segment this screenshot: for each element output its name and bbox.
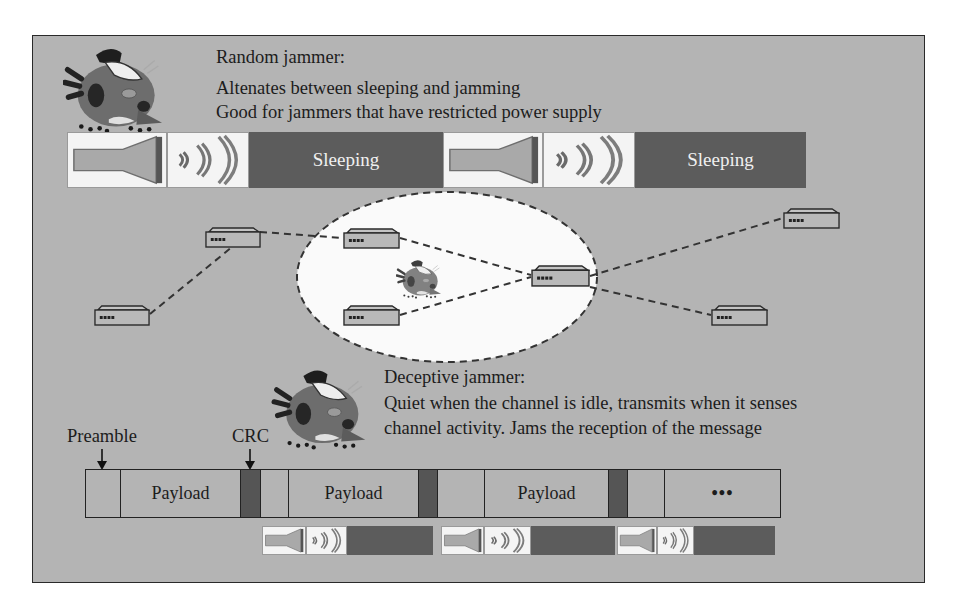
arrow-down-icon bbox=[244, 449, 256, 471]
deceptive-jammer-desc-2: channel activity. Jams the reception of … bbox=[384, 417, 762, 439]
network-node-icon bbox=[343, 305, 400, 326]
deceptive-jammer-desc-1: Quiet when the channel is idle, transmit… bbox=[384, 392, 797, 414]
jam-burst-block bbox=[531, 526, 615, 555]
frame-segment-gap bbox=[628, 470, 665, 517]
frame-segment-payload: Payload bbox=[485, 470, 609, 517]
frame-segment-payload: Payload bbox=[121, 470, 241, 517]
frame-segment-preamble bbox=[86, 470, 121, 517]
radio-waves-icon bbox=[306, 526, 347, 555]
arrow-down-icon bbox=[96, 449, 108, 471]
network-node-icon bbox=[205, 227, 261, 248]
jam-burst-block bbox=[347, 526, 433, 555]
speaker-icon bbox=[617, 526, 657, 555]
frame-segment-more: ••• bbox=[665, 470, 780, 517]
jammer-creature-icon bbox=[396, 250, 446, 306]
speaker-icon bbox=[262, 526, 306, 555]
radio-waves-icon bbox=[657, 526, 694, 555]
frame-segment-crc bbox=[241, 470, 261, 517]
jammer-creature-icon bbox=[268, 364, 380, 450]
network-node-icon bbox=[531, 265, 590, 287]
deceptive-jammer-title: Deceptive jammer: bbox=[384, 366, 525, 388]
speaker-icon bbox=[441, 526, 484, 555]
network-node-icon bbox=[783, 208, 840, 229]
crc-label: CRC bbox=[232, 425, 269, 447]
preamble-label: Preamble bbox=[67, 425, 137, 447]
network-node-icon bbox=[711, 305, 768, 326]
frame-segment-payload: Payload bbox=[289, 470, 419, 517]
frame-segment-gap bbox=[438, 470, 485, 517]
frame-segment-gap bbox=[261, 470, 289, 517]
frame-segment-crc bbox=[609, 470, 628, 517]
jam-burst-block bbox=[694, 526, 775, 555]
frame-segment-crc bbox=[419, 470, 438, 517]
radio-waves-icon bbox=[484, 526, 531, 555]
network-node-icon bbox=[94, 305, 150, 326]
message-frame: Payload Payload Payload ••• bbox=[85, 469, 781, 518]
network-node-icon bbox=[343, 228, 400, 249]
